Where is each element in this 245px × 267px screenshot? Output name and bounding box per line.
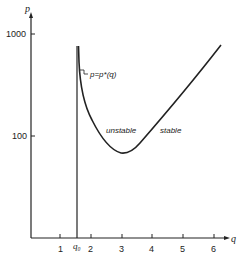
stable-label: stable (160, 126, 182, 135)
x-tick-label-4: 4 (149, 244, 154, 254)
y-tick-label-1000: 1000 (6, 29, 26, 39)
x-tick-label-5: 5 (180, 244, 185, 254)
x-tick-label-2: 2 (88, 244, 93, 254)
x-tick-label-6: 6 (211, 244, 216, 254)
x-axis-arrow-icon (224, 236, 230, 240)
x-axis-label: q (231, 233, 236, 244)
chart-svg: p 1000 100 q 1 q₀ 2 3 4 5 6 p=p*(q) unst… (0, 0, 245, 267)
p-star-curve (79, 45, 222, 153)
unstable-label: unstable (106, 126, 137, 135)
x-tick-label-3: 3 (119, 244, 124, 254)
x-tick-label-q0: q₀ (73, 241, 81, 251)
curve-label: p=p*(q) (89, 70, 117, 79)
y-tick-label-100: 100 (12, 131, 27, 141)
curve-label-leader (80, 70, 88, 74)
x-tick-label-1: 1 (58, 244, 63, 254)
y-axis-label: p (24, 3, 30, 14)
